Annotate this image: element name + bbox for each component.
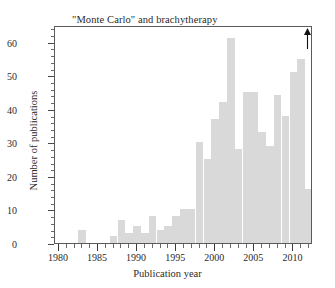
arrow-up-icon	[303, 28, 312, 50]
x-tick-minor	[261, 244, 262, 248]
bar	[274, 95, 282, 243]
bar	[250, 92, 258, 243]
bar	[133, 226, 141, 243]
x-tick-minor	[308, 244, 309, 248]
y-tick-label: 30	[0, 138, 17, 149]
x-tick-minor	[66, 244, 67, 248]
bar	[188, 209, 196, 243]
x-tick-minor	[246, 244, 247, 248]
x-tick-minor	[128, 244, 129, 248]
x-tick-major	[58, 244, 59, 251]
bar	[164, 226, 172, 243]
bar	[227, 38, 235, 243]
plot-area	[54, 26, 312, 244]
x-tick-minor	[238, 244, 239, 248]
bar	[196, 142, 204, 243]
bar	[125, 233, 133, 243]
x-tick-minor	[120, 244, 121, 248]
x-tick-label: 2000	[194, 252, 234, 263]
bar	[243, 92, 251, 243]
x-tick-major	[214, 244, 215, 251]
bar	[258, 132, 266, 243]
bar	[180, 209, 188, 243]
x-tick-major	[292, 244, 293, 251]
bar	[297, 59, 305, 243]
chart-container: "Monte Carlo" and brachytherapy Number o…	[0, 0, 335, 288]
x-tick-minor	[199, 244, 200, 248]
x-tick-label: 2010	[272, 252, 312, 263]
y-tick-label: 0	[0, 239, 17, 250]
y-tick-label: 20	[0, 171, 17, 182]
bar	[78, 230, 86, 243]
bar	[157, 230, 165, 243]
bar	[141, 233, 149, 243]
x-tick-minor	[269, 244, 270, 248]
bar	[305, 189, 312, 243]
x-axis-label: Publication year	[0, 268, 335, 279]
x-tick-minor	[167, 244, 168, 248]
x-tick-minor	[113, 244, 114, 248]
x-tick-minor	[74, 244, 75, 248]
y-tick-label: 40	[0, 104, 17, 115]
x-tick-minor	[152, 244, 153, 248]
bar	[290, 72, 298, 243]
bar	[172, 216, 180, 243]
x-tick-label: 2005	[233, 252, 273, 263]
histogram-bars	[55, 27, 311, 243]
x-tick-label: 1980	[38, 252, 78, 263]
bar	[110, 236, 118, 243]
x-tick-major	[136, 244, 137, 251]
chart-title: "Monte Carlo" and brachytherapy	[72, 14, 218, 25]
x-tick-minor	[277, 244, 278, 248]
x-tick-minor	[300, 244, 301, 248]
bar	[282, 116, 290, 243]
bar	[118, 220, 126, 243]
x-tick-minor	[191, 244, 192, 248]
bar	[149, 216, 157, 243]
x-tick-label: 1995	[155, 252, 195, 263]
y-tick-major	[48, 244, 54, 245]
bar	[235, 149, 243, 243]
x-tick-minor	[144, 244, 145, 248]
x-tick-major	[97, 244, 98, 251]
x-tick-minor	[285, 244, 286, 248]
bar	[211, 119, 219, 243]
x-tick-minor	[105, 244, 106, 248]
bar	[219, 102, 227, 243]
y-tick-label: 10	[0, 205, 17, 216]
bar	[266, 146, 274, 243]
x-tick-minor	[89, 244, 90, 248]
x-tick-label: 1985	[77, 252, 117, 263]
x-tick-label: 1990	[116, 252, 156, 263]
x-tick-minor	[206, 244, 207, 248]
y-tick-label: 60	[0, 37, 17, 48]
y-tick-label: 50	[0, 71, 17, 82]
x-tick-major	[175, 244, 176, 251]
x-tick-minor	[222, 244, 223, 248]
x-tick-minor	[160, 244, 161, 248]
x-tick-minor	[230, 244, 231, 248]
y-axis-label: Number of publications	[28, 46, 39, 236]
x-tick-minor	[183, 244, 184, 248]
x-tick-major	[253, 244, 254, 251]
x-tick-minor	[81, 244, 82, 248]
bar	[204, 159, 212, 243]
